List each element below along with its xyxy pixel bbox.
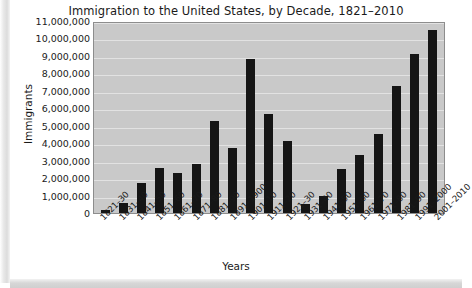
bar-slot — [296, 23, 314, 213]
chart-figure: Immigration to the United States, by Dec… — [10, 0, 462, 279]
y-axis-tick-label: 9,000,000 — [32, 52, 90, 62]
bar-slot — [333, 23, 351, 213]
bar-slot — [169, 23, 187, 213]
y-axis-tick-label: 4,000,000 — [32, 139, 90, 149]
x-axis-title: Years — [10, 260, 462, 272]
bar-slot — [96, 23, 114, 213]
bar-slot — [369, 23, 387, 213]
y-axis-tick-label: 2,000,000 — [32, 174, 90, 184]
bar-slot — [151, 23, 169, 213]
plot-area — [93, 22, 445, 214]
scan-edge-bottom — [10, 279, 466, 288]
bar-slot — [387, 23, 405, 213]
y-axis-tick-label: 3,000,000 — [32, 157, 90, 167]
y-axis-tick-label: 5,000,000 — [32, 122, 90, 132]
y-axis-tick-label: 0 — [32, 209, 90, 219]
bar-slot — [314, 23, 332, 213]
scan-edge-left — [0, 0, 10, 283]
bar — [428, 30, 437, 213]
bar-slot — [187, 23, 205, 213]
x-axis-tick-labels: 1821–301831–401841–501851–601861–701871–… — [93, 215, 445, 263]
bar-series — [94, 23, 444, 213]
scan-edge-right — [462, 0, 466, 288]
bar-slot — [351, 23, 369, 213]
y-axis-tick-labels: 11,000,00010,000,0009,000,0008,000,0007,… — [32, 22, 90, 214]
bar-slot — [114, 23, 132, 213]
bar-slot — [223, 23, 241, 213]
y-axis-tick-label: 11,000,000 — [32, 17, 90, 27]
bar-slot — [424, 23, 442, 213]
bar — [410, 54, 419, 213]
bar-slot — [205, 23, 223, 213]
bar-slot — [278, 23, 296, 213]
y-axis-tick-label: 7,000,000 — [32, 87, 90, 97]
bar-slot — [132, 23, 150, 213]
y-axis-tick-label: 6,000,000 — [32, 104, 90, 114]
y-axis-tick-label: 10,000,000 — [32, 34, 90, 44]
bar-slot — [405, 23, 423, 213]
y-axis-tick-label: 8,000,000 — [32, 69, 90, 79]
y-axis-tick-label: 1,000,000 — [32, 192, 90, 202]
